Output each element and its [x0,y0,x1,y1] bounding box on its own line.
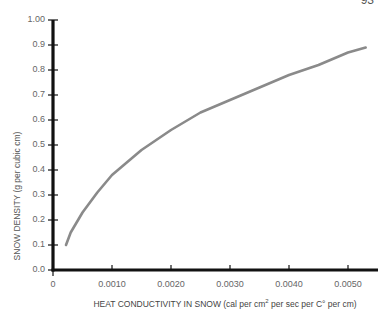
y-tick-label: 0.9 [15,39,45,49]
x-axis-label-post: per sec per C° per cm) [269,299,357,309]
x-tick-label: 0.0020 [157,279,185,289]
x-tick-label: 0.0010 [98,279,126,289]
x-tick-label: 0.0040 [275,279,303,289]
y-tick-label: 0.7 [15,89,45,99]
x-axis-label: HEAT CONDUCTIVITY IN SNOW (cal per cm2 p… [93,298,356,309]
axes [48,20,378,276]
x-tick-label: 0.0050 [334,279,362,289]
x-tick-label: 0 [50,279,55,289]
y-tick-label: 1.00 [15,14,45,24]
x-tick-label: 0.0030 [216,279,244,289]
x-axis-label-pre: HEAT CONDUCTIVITY IN SNOW (cal per cm [93,299,265,309]
y-tick-label: 0.8 [15,64,45,74]
y-axis-label: SNOW DENSITY (g per cubic cm) [12,132,22,261]
chart-plot [0,0,378,314]
y-tick-label: 0.6 [15,114,45,124]
data-curve [66,48,366,246]
y-tick-label: 0.0 [15,264,45,274]
